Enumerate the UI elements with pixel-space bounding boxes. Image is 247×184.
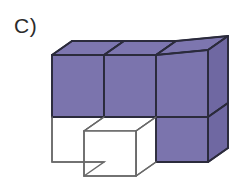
cube-stack-diagram [0, 0, 247, 184]
cube-bottom-front-front-face [84, 131, 136, 176]
cube-bottom-right-front-face [156, 117, 208, 162]
cube-top-left-front-face [52, 55, 104, 117]
cube-top-right-front-face [156, 50, 208, 117]
figure-container: C) [0, 0, 247, 184]
cube-top-middle-front-face [104, 55, 156, 117]
